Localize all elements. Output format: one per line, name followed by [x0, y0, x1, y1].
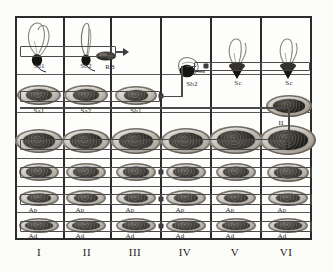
flow-seg-sb1-right	[161, 96, 183, 98]
flow-bar-round-spermatid	[20, 91, 160, 102]
row-divider-3	[15, 158, 312, 159]
spermatid-sc-stage6	[273, 35, 303, 81]
figure-canvas: Sd1 Sb2 RB Sb2	[0, 0, 333, 272]
flow-seg-sb1-up	[181, 66, 183, 97]
flow-bar-type-a-pale	[20, 194, 312, 205]
label-ad-iv: Ad	[176, 232, 185, 240]
stage-numeral-v: V	[211, 246, 259, 258]
label-rb: RB	[105, 63, 115, 71]
flow-bar-row4	[20, 167, 312, 178]
flow-node-ad-iii	[159, 224, 164, 229]
stage-numeral-ii: II	[63, 246, 111, 258]
label-ap-iii: Ap	[126, 206, 135, 214]
flow-node-sb2-to-sc	[204, 64, 209, 69]
spermatid-sd1	[21, 17, 55, 67]
stage-numeral-iv: IV	[161, 246, 209, 258]
stage-numeral-iii: III	[111, 246, 159, 258]
label-ap-iv: Ap	[176, 206, 185, 214]
row-divider-5	[15, 212, 312, 213]
flow-arrow-spermiation	[123, 48, 129, 56]
label-sc-stage5: Sc	[234, 79, 241, 87]
label-ad-iii: Ad	[126, 232, 135, 240]
label-sd1: Sd1	[33, 62, 45, 70]
flow-seg-secondary-to-pachytene	[288, 114, 290, 148]
label-ad-vi: Ad	[278, 232, 287, 240]
label-sb2-stage4: Sb2	[186, 80, 198, 88]
flow-bar-pachytene	[20, 139, 286, 150]
label-ad-i: Ad	[29, 232, 38, 240]
label-sb2-stage2: Sb2	[80, 62, 92, 70]
stage-numeral-vi: VI	[262, 246, 310, 258]
label-sc-stage6: Sc	[285, 79, 292, 87]
label-ad-v: Ad	[226, 232, 235, 240]
row-divider-1	[15, 74, 312, 75]
spermatid-sc-stage5	[222, 35, 252, 81]
label-ad-ii: Ad	[76, 232, 85, 240]
flow-bar-sc-maturation	[194, 62, 310, 71]
flow-node-ap-iii	[159, 197, 164, 202]
flow-node-row4-iii	[159, 170, 164, 175]
label-ap-ii: Ap	[76, 206, 85, 214]
row-divider-4	[15, 186, 312, 187]
stage-numeral-i: I	[15, 246, 63, 258]
flow-bar-type-a-dark	[20, 221, 312, 232]
label-ap-vi: Ap	[278, 206, 287, 214]
label-ap-v: Ap	[226, 206, 235, 214]
flow-seg-sb2-entry	[186, 66, 196, 68]
flow-bar-spermiation	[20, 46, 116, 57]
flow-seg-meiosis-return	[20, 107, 290, 109]
label-ap-i: Ap	[29, 206, 38, 214]
